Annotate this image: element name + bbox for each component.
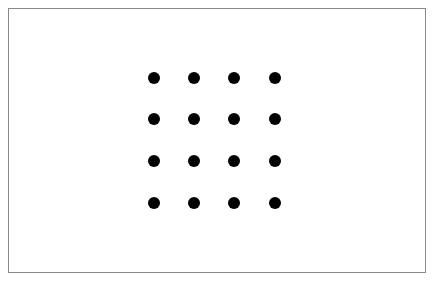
- grid-dot: [228, 113, 240, 125]
- grid-dot: [148, 197, 160, 209]
- grid-dot: [269, 72, 281, 84]
- grid-dot: [269, 113, 281, 125]
- grid-dot: [188, 155, 200, 167]
- grid-dot: [228, 197, 240, 209]
- grid-dot: [188, 113, 200, 125]
- grid-dot: [269, 155, 281, 167]
- grid-dot: [148, 72, 160, 84]
- grid-dot: [148, 113, 160, 125]
- grid-dot: [188, 72, 200, 84]
- grid-dot: [269, 197, 281, 209]
- grid-dot: [148, 155, 160, 167]
- grid-dot: [228, 155, 240, 167]
- diagram-frame: [8, 8, 426, 273]
- grid-dot: [228, 72, 240, 84]
- grid-dot: [188, 197, 200, 209]
